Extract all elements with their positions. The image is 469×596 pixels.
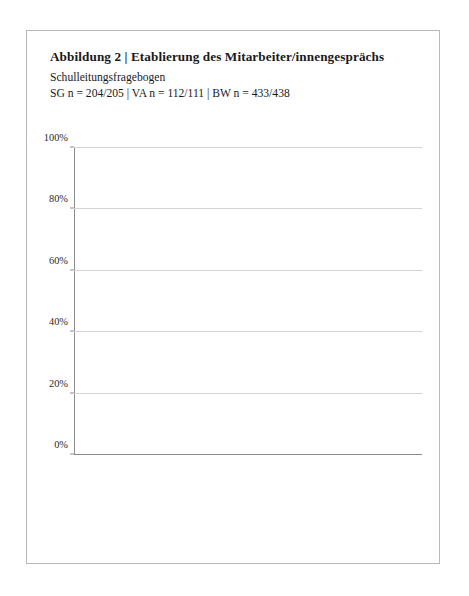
gridline-100% xyxy=(74,147,422,148)
y-tick-mark xyxy=(70,147,74,148)
gridline-60% xyxy=(74,270,422,271)
y-axis-label-20%: 20% xyxy=(30,377,68,388)
y-axis-label-40%: 40% xyxy=(30,316,68,327)
y-tick-mark xyxy=(70,208,74,209)
y-tick-mark xyxy=(70,269,74,270)
y-tick-mark xyxy=(70,392,74,393)
y-axis-label-0%: 0% xyxy=(30,439,68,450)
y-axis-label-100%: 100% xyxy=(30,132,68,143)
y-tick-mark xyxy=(70,331,74,332)
y-axis xyxy=(74,148,75,455)
gridline-40% xyxy=(74,331,422,332)
gridline-0% xyxy=(74,454,422,455)
gridline-20% xyxy=(74,393,422,394)
gridline-80% xyxy=(74,208,422,209)
y-axis-label-80%: 80% xyxy=(30,193,68,204)
figure-header: Abbildung 2 | Etablierung des Mitarbeite… xyxy=(50,49,422,100)
y-axis-label-60%: 60% xyxy=(30,254,68,265)
y-tick-mark xyxy=(70,454,74,455)
figure-subtitle: Schulleitungsfragebogen xyxy=(50,71,422,84)
figure-title: Abbildung 2 | Etablierung des Mitarbeite… xyxy=(50,49,422,65)
sample-size-note: SG n = 204/205 | VA n = 112/111 | BW n =… xyxy=(50,87,422,100)
figure-frame: Abbildung 2 | Etablierung des Mitarbeite… xyxy=(26,30,440,564)
plot-area: 0%20%40%60%80%100% xyxy=(74,148,422,455)
